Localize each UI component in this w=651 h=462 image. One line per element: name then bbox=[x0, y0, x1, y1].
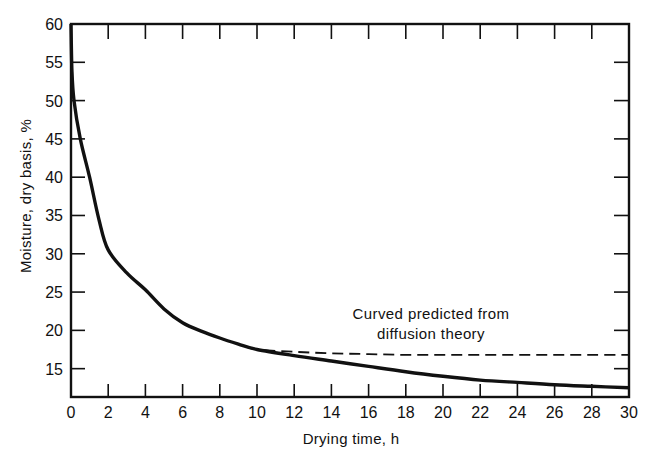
x-tick-label: 4 bbox=[141, 404, 150, 421]
x-tick-label: 8 bbox=[215, 404, 224, 421]
y-tick-label: 50 bbox=[45, 93, 63, 110]
series-layer bbox=[71, 24, 629, 388]
y-tick-label: 20 bbox=[45, 322, 63, 339]
moisture-drying-chart: 024681012141618202224262830 152025303540… bbox=[0, 0, 651, 462]
y-tick-label: 45 bbox=[45, 131, 63, 148]
y-tick-label: 15 bbox=[45, 361, 63, 378]
x-tick-label: 28 bbox=[583, 404, 601, 421]
x-tick-label: 22 bbox=[471, 404, 489, 421]
x-tick-label: 20 bbox=[434, 404, 452, 421]
y-tick-label: 40 bbox=[45, 169, 63, 186]
y-tick-label: 60 bbox=[45, 16, 63, 33]
experimental-drying-curve bbox=[71, 24, 629, 388]
x-tick-label: 0 bbox=[67, 404, 76, 421]
y-tick-label: 25 bbox=[45, 284, 63, 301]
y-axis-ticks: 15202530354045505560 bbox=[45, 16, 629, 378]
plot-border bbox=[71, 24, 629, 397]
x-tick-label: 24 bbox=[509, 404, 527, 421]
x-tick-label: 30 bbox=[620, 404, 638, 421]
diffusion-theory-dashed-curve bbox=[248, 347, 629, 355]
y-tick-label: 30 bbox=[45, 246, 63, 263]
annotation-line-1: Curved predicted from bbox=[353, 305, 510, 322]
annotation-line-2: diffusion theory bbox=[377, 325, 485, 342]
y-tick-label: 35 bbox=[45, 207, 63, 224]
x-tick-label: 18 bbox=[397, 404, 415, 421]
x-tick-label: 16 bbox=[360, 404, 378, 421]
x-tick-label: 14 bbox=[323, 404, 341, 421]
x-tick-label: 10 bbox=[248, 404, 266, 421]
plot-frame bbox=[71, 24, 629, 397]
y-tick-label: 55 bbox=[45, 54, 63, 71]
x-tick-label: 6 bbox=[178, 404, 187, 421]
x-axis-ticks: 024681012141618202224262830 bbox=[67, 24, 638, 421]
x-tick-label: 26 bbox=[546, 404, 564, 421]
x-tick-label: 12 bbox=[285, 404, 303, 421]
x-tick-label: 2 bbox=[104, 404, 113, 421]
y-axis-title: Moisture, dry basis, % bbox=[17, 119, 34, 273]
x-axis-title: Drying time, h bbox=[303, 430, 400, 447]
